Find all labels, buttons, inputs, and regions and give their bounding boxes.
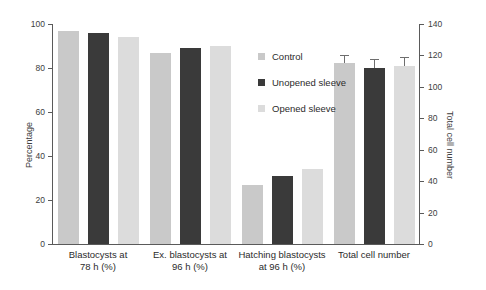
y-axis-left-tick: [48, 112, 52, 113]
y-axis-right-tick: [420, 181, 424, 182]
category-label-line2: 78 h (%): [52, 261, 144, 273]
category-label-line2: at 96 h (%): [236, 261, 328, 273]
plot-area: 020406080100 020406080100120140: [52, 24, 420, 245]
y-axis-right-tick: [420, 213, 424, 214]
bar: [364, 68, 385, 244]
y-axis-right-tick-label: 120: [428, 51, 442, 60]
y-axis-right-tick: [420, 244, 424, 245]
y-axis-left-tick-label: 80: [36, 64, 45, 73]
category-label-line2: 96 h (%): [144, 261, 236, 273]
legend-label: Opened sleeve: [272, 103, 336, 114]
bar: [272, 176, 293, 244]
bar: [180, 48, 201, 244]
error-bar-cap: [400, 57, 409, 58]
category-label-line1: Hatching blastocysts: [236, 249, 328, 261]
y-axis-right-tick-label: 60: [428, 146, 437, 155]
category-label-line1: Total cell number: [328, 249, 420, 261]
x-axis-category-label: Hatching blastocystsat 96 h (%): [236, 249, 328, 273]
y-axis-right-tick: [420, 150, 424, 151]
bar: [242, 185, 263, 244]
legend-item: Control: [258, 43, 346, 69]
y-axis-left-tick: [48, 24, 52, 25]
y-axis-right-tick: [420, 55, 424, 56]
error-bar: [404, 57, 405, 66]
bar: [118, 37, 139, 244]
category-label-line1: Blastocysts at: [52, 249, 144, 261]
y-axis-left-tick-label: 60: [36, 108, 45, 117]
x-axis-category-label: Total cell number: [328, 249, 420, 261]
legend-item: Unopened sleeve: [258, 69, 346, 95]
y-axis-left-line: [52, 24, 53, 245]
x-axis-category-label: Blastocysts at78 h (%): [52, 249, 144, 273]
legend-swatch-icon: [258, 105, 265, 112]
y-axis-left-tick-label: 100: [31, 20, 45, 29]
bar: [88, 33, 109, 244]
legend: ControlUnopened sleeveOpened sleeve: [258, 43, 346, 121]
y-axis-left-tick: [48, 68, 52, 69]
x-axis-line: [52, 244, 420, 245]
category-label-line1: Ex. blastocysts at: [144, 249, 236, 261]
y-axis-right-tick-label: 80: [428, 114, 437, 123]
error-bar: [374, 59, 375, 68]
y-axis-right-tick-label: 140: [428, 20, 442, 29]
x-axis-category-label: Ex. blastocysts at96 h (%): [144, 249, 236, 273]
y-axis-right-tick-label: 100: [428, 83, 442, 92]
y-axis-right-tick-label: 0: [428, 240, 433, 249]
bar-chart: Percentage Total cell number 02040608010…: [0, 0, 486, 290]
y-axis-left-tick: [48, 200, 52, 201]
y-axis-right-tick-label: 40: [428, 177, 437, 186]
error-bar-cap: [370, 59, 379, 60]
bar: [210, 46, 231, 244]
bar: [302, 169, 323, 244]
legend-label: Control: [272, 51, 303, 62]
y-axis-right-tick: [420, 24, 424, 25]
y-axis-right-tick: [420, 118, 424, 119]
y-axis-left-tick-label: 0: [40, 240, 45, 249]
bar: [394, 66, 415, 244]
bar: [150, 53, 171, 244]
y-axis-right-tick-label: 20: [428, 209, 437, 218]
y-axis-right-title: Total cell number: [445, 111, 455, 179]
legend-swatch-icon: [258, 53, 265, 60]
legend-swatch-icon: [258, 79, 265, 86]
y-axis-left-tick-label: 40: [36, 152, 45, 161]
y-axis-left-title: Percentage: [24, 122, 34, 168]
bar: [58, 31, 79, 244]
legend-item: Opened sleeve: [258, 95, 346, 121]
y-axis-left-tick-label: 20: [36, 196, 45, 205]
y-axis-left-tick: [48, 156, 52, 157]
y-axis-right-tick: [420, 87, 424, 88]
y-axis-left-tick: [48, 244, 52, 245]
legend-label: Unopened sleeve: [272, 77, 346, 88]
